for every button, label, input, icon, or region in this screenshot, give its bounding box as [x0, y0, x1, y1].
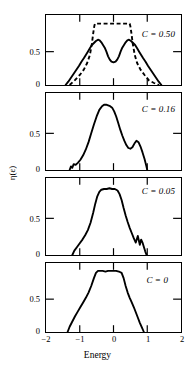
panel-c0-canvas — [46, 263, 181, 332]
panel-c0-ticks — [46, 263, 181, 332]
ytick-label-p2-0: 0 — [14, 164, 40, 174]
plot-panel-c005: C = 0.05 — [45, 177, 182, 256]
ytick-label-p3-05: 0.5 — [14, 214, 40, 224]
y-axis-label: η(ε) — [7, 153, 17, 193]
panel-c050-canvas — [46, 15, 181, 85]
panel-c050-ticks — [46, 15, 181, 85]
panel-c050-annotation: C = 0.50 — [142, 29, 175, 39]
xtick-label-minus2: −2 — [36, 334, 56, 344]
curve-c016-solid — [70, 105, 148, 170]
curve-c005-solid — [72, 188, 146, 255]
x-axis-label: Energy — [0, 350, 195, 360]
plot-panel-c0: C = 0 — [45, 262, 182, 333]
xtick-label-minus1: −1 — [70, 334, 90, 344]
curve-c0-solid — [68, 271, 144, 332]
ytick-label-p4-05: 0.5 — [14, 294, 40, 304]
ytick-label-p2-05: 0.5 — [14, 129, 40, 139]
ytick-label-p3-0: 0 — [14, 249, 40, 259]
xtick-label-zero: 0 — [104, 334, 124, 344]
xtick-label-one: 1 — [138, 334, 158, 344]
panel-c016-annotation: C = 0.16 — [142, 104, 175, 114]
panel-c0-annotation: C = 0 — [146, 275, 168, 285]
plot-panel-c050: C = 0.50 — [45, 14, 182, 86]
figure-container: C = 0.50 C = 0.16 — [0, 0, 195, 373]
plot-panel-c016: C = 0.16 — [45, 92, 182, 171]
ytick-label-p1-05: 0.5 — [14, 47, 40, 57]
ytick-label-p1-0: 0 — [14, 79, 40, 89]
panel-c005-annotation: C = 0.05 — [142, 186, 175, 196]
xtick-label-two: 2 — [172, 334, 192, 344]
